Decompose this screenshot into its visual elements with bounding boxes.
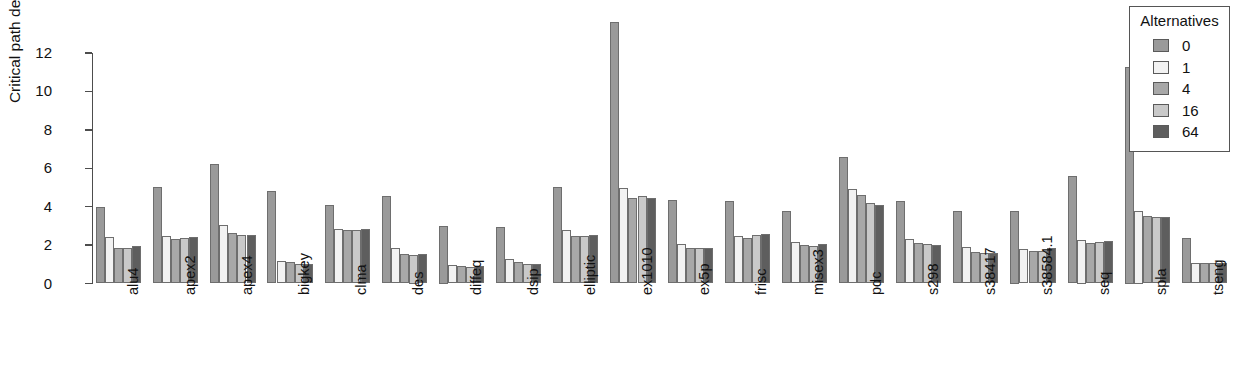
legend-label-1: 1 [1182,58,1190,77]
bar-spla-alt1 [1134,211,1143,283]
bar-pdc-alt1 [848,189,857,283]
bar-apex2-alt1 [162,236,171,283]
bar-s38584.1-alt0 [1010,211,1019,283]
bar-bigkey-alt4 [286,262,295,283]
bar-dsip-alt0 [496,227,505,284]
bar-pdc-alt4 [857,195,866,283]
x-axis-label-s38417: s38417 [983,247,998,295]
x-axis-label-ex1010: ex1010 [640,247,655,295]
bar-apex4-alt1 [219,225,228,284]
legend-swatch-0 [1153,39,1169,52]
bar-seq-alt4 [1086,243,1095,283]
bar-bigkey-alt0 [267,191,276,283]
bar-seq-alt1 [1077,240,1086,283]
plot-area: 024681012 alu4apex2apex4bigkeyclmadesdif… [0,0,1237,381]
x-axis-label-spla: spla [1154,268,1169,295]
x-axis-label-apex2: apex2 [183,255,198,295]
bar-s298-alt0 [896,201,905,284]
bar-bigkey-alt1 [277,261,286,283]
bar-misex3-alt1 [791,242,800,283]
bar-elliptic-alt1 [562,230,571,284]
x-axis-label-dsip: dsip [526,268,541,295]
bar-s38417-alt0 [953,211,962,284]
legend: Alternatives 0141664 [1129,6,1230,152]
bar-s298-alt1 [905,239,914,283]
bar-seq-alt0 [1068,176,1077,284]
chart-canvas: Critical path delay (ns) 024681012 alu4a… [0,0,1237,381]
legend-entry-64: 64 [1130,122,1229,142]
bar-ex1010-alt0 [610,22,619,283]
bar-alu4-alt4 [114,248,123,284]
bar-clma-alt4 [343,230,352,284]
bar-frisc-alt0 [725,201,734,284]
x-axis-label-diffeq: diffeq [469,260,484,295]
legend-swatch-4 [1153,82,1169,95]
bar-alu4-alt1 [105,237,114,283]
x-axis-label-elliptic: elliptic [583,255,598,295]
bar-ex5p-alt0 [668,200,677,284]
bar-apex4-alt4 [228,233,237,284]
x-axis-label-clma: clma [354,264,369,295]
bar-frisc-alt1 [734,236,743,283]
legend-swatch-1 [1153,61,1169,74]
x-axis-label-misex3: misex3 [811,249,826,295]
bar-diffeq-alt4 [457,266,466,283]
bar-tseng-alt4 [1200,263,1209,283]
bar-dsip-alt1 [505,259,514,284]
bar-tseng-alt0 [1182,238,1191,283]
bar-ex1010-alt1 [619,188,628,283]
x-axis-label-pdc: pdc [869,272,884,295]
bar-ex5p-alt4 [686,248,695,284]
bar-alu4-alt0 [96,207,105,284]
bar-ex5p-alt1 [677,244,686,283]
x-axis-label-bigkey: bigkey [297,253,312,295]
legend-label-0: 0 [1182,36,1190,55]
bar-tseng-alt1 [1191,263,1200,283]
bar-ex1010-alt4 [628,198,637,283]
bar-apex4-alt0 [210,164,219,283]
bar-s38417-alt1 [962,247,971,283]
bar-misex3-alt0 [782,211,791,284]
x-axis-label-apex4: apex4 [240,255,255,295]
bar-diffeq-alt1 [448,265,457,283]
legend-title: Alternatives [1130,12,1229,29]
legend-entry-0: 0 [1130,36,1229,56]
bar-s38584.1-alt4 [1029,251,1038,284]
x-axis-label-seq: seq [1097,272,1112,295]
bar-clma-alt0 [325,205,334,284]
x-axis-label-tseng: tseng [1211,260,1226,295]
bar-elliptic-alt4 [571,236,580,283]
bar-spla-alt4 [1143,216,1152,283]
x-axis-label-ex5p: ex5p [697,264,712,295]
bar-clma-alt1 [334,229,343,284]
bar-misex3-alt4 [800,245,809,283]
bar-des-alt1 [391,248,400,284]
x-axis-label-frisc: frisc [754,268,769,295]
bar-apex2-alt0 [153,187,162,283]
bar-apex2-alt4 [171,239,180,283]
legend-entry-16: 16 [1130,101,1229,121]
bar-frisc-alt4 [743,238,752,283]
bar-dsip-alt4 [514,262,523,283]
legend-label-4: 4 [1182,79,1190,98]
bar-elliptic-alt0 [553,187,562,283]
x-axis-label-des: des [411,272,426,295]
x-axis-label-alu4: alu4 [126,268,141,295]
legend-swatch-16 [1153,104,1169,117]
legend-label-64: 64 [1182,122,1199,141]
bar-des-alt4 [400,254,409,284]
bar-s298-alt4 [914,243,923,283]
bar-s38584.1-alt1 [1019,249,1028,284]
bar-series-container [0,0,1237,381]
legend-label-16: 16 [1182,101,1199,120]
bar-s38417-alt4 [971,252,980,284]
bar-des-alt0 [382,196,391,283]
legend-swatch-64 [1153,125,1169,138]
bar-diffeq-alt0 [439,226,448,284]
legend-entry-1: 1 [1130,58,1229,78]
legend-entry-4: 4 [1130,79,1229,99]
x-axis-label-s298: s298 [926,264,941,295]
x-axis-label-s38584.1: s38584.1 [1040,235,1055,295]
bar-pdc-alt0 [839,157,848,284]
